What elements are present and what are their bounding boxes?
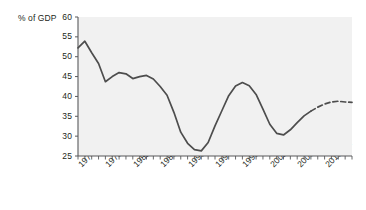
plot-background	[78, 17, 352, 156]
plot-area	[0, 0, 366, 210]
chart-container: % of GDP 6055504540353025 1974–751978–79…	[0, 0, 366, 210]
